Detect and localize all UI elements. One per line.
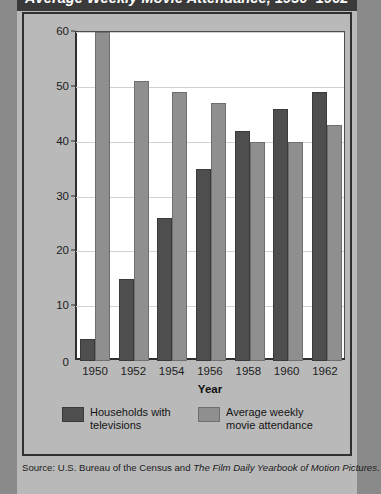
y-axis-tick — [71, 85, 75, 86]
bar-movie-attendance — [134, 81, 149, 361]
y-axis-tick-label: 60 — [56, 25, 69, 37]
bar-movie-attendance — [327, 125, 342, 361]
y-axis-tick — [71, 31, 75, 32]
plot-area — [75, 31, 345, 360]
x-axis-tick-label: 1956 — [194, 365, 226, 377]
y-axis-tick — [71, 250, 75, 251]
bar-movie-attendance — [288, 142, 303, 361]
legend-label-televisions: Households with televisions — [90, 406, 184, 431]
x-axis-title: Year — [75, 383, 345, 395]
x-axis-tick-label: 1962 — [309, 365, 341, 377]
bar-televisions — [157, 218, 172, 361]
bar-televisions — [273, 109, 288, 361]
bar-movie-attendance — [250, 142, 265, 361]
legend-swatch-movie-attendance — [198, 407, 220, 422]
legend-label-movie-attendance: Average weekly movie attendance — [226, 406, 320, 431]
plot-area-wrapper: 0102030405060 19501952195419561958196019… — [75, 31, 345, 361]
bar-televisions — [196, 169, 211, 361]
legend-item-televisions: Households with televisions — [62, 406, 184, 431]
chart-page: Average Weekly Movie Attendance, 1950–19… — [0, 0, 381, 494]
bar-group — [235, 32, 265, 361]
bar-group — [157, 32, 187, 361]
x-axis-tick-label: 1950 — [79, 365, 111, 377]
bar-group — [196, 32, 226, 361]
bar-groups — [76, 32, 346, 361]
y-axis-tick-label: 30 — [56, 190, 69, 202]
y-axis-tick-label: 50 — [56, 80, 69, 92]
bar-movie-attendance — [95, 32, 110, 361]
y-axis-tick — [71, 305, 75, 306]
x-axis-labels: 1950195219541956195819601962 — [75, 365, 345, 377]
bar-group — [80, 32, 110, 361]
chart-legend: Households with televisions Average week… — [62, 406, 327, 431]
bar-group — [273, 32, 303, 361]
chart-title-band: Average Weekly Movie Attendance, 1950–19… — [17, 0, 357, 11]
bar-group — [312, 32, 342, 361]
x-axis-tick-label: 1958 — [232, 365, 264, 377]
page-gutter-left — [0, 0, 17, 494]
y-axis-tick — [71, 140, 75, 141]
legend-item-movie-attendance: Average weekly movie attendance — [198, 406, 320, 431]
x-axis-tick-label: 1952 — [117, 365, 149, 377]
x-axis-tick-label: 1954 — [156, 365, 188, 377]
legend-swatch-televisions — [62, 407, 84, 422]
bar-televisions — [119, 279, 134, 361]
bar-televisions — [312, 92, 327, 361]
y-axis-tick-label: 10 — [56, 299, 69, 311]
source-italic-title: The Film Daily Yearbook of Motion Pictur… — [193, 462, 377, 473]
source-prefix: Source: U.S. Bureau of the Census and — [22, 462, 193, 473]
y-axis-tick-label: 0 — [63, 356, 69, 368]
y-axis-tick — [71, 195, 75, 196]
source-note: Source: U.S. Bureau of the Census and Th… — [22, 462, 367, 473]
x-axis-tick-label: 1960 — [271, 365, 303, 377]
bar-group — [119, 32, 149, 361]
page-gutter-right — [357, 0, 381, 494]
source-suffix: . — [377, 462, 380, 473]
bar-televisions — [80, 339, 95, 361]
bar-movie-attendance — [172, 92, 187, 361]
chart-frame: Number (in millions) 0102030405060 19501… — [22, 12, 352, 456]
y-axis-tick-label: 40 — [56, 135, 69, 147]
bar-televisions — [235, 131, 250, 361]
y-axis-tick-label: 20 — [56, 244, 69, 256]
bar-movie-attendance — [211, 103, 226, 361]
chart-title: Average Weekly Movie Attendance, 1950–19… — [25, 0, 348, 6]
